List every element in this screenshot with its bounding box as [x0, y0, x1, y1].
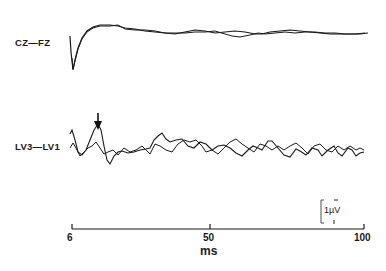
x-tick-label-6: 6: [67, 232, 73, 243]
cz-fz-trace-b: [72, 25, 365, 69]
x-axis-unit: ms: [200, 244, 217, 258]
x-tick-label-50: 50: [203, 232, 214, 243]
evoked-potential-figure: CZ—FZ LV3—LV1 6 50 100 ms 1µV: [0, 0, 386, 271]
x-tick-label-100: 100: [354, 232, 371, 243]
panel-label-lv3-lv1: LV3—LV1: [15, 141, 60, 152]
scale-bar-label: 1µV: [324, 205, 340, 215]
traces-plot: [0, 0, 386, 271]
panel-label-cz-fz: CZ—FZ: [15, 37, 50, 48]
x-axis: [72, 224, 364, 229]
